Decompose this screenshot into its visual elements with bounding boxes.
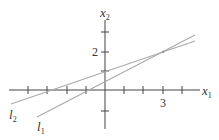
line-l1-label: l1 [37,120,45,136]
intersection-point [162,51,164,53]
x-tick-label: 3 [160,97,166,109]
line-l2-label: l2 [9,108,17,124]
line-l2 [11,41,195,104]
line-l1 [37,35,195,117]
y-tick-label: 2 [92,46,98,58]
y-axis-label: x2 [100,6,110,22]
x-axis-label: x1 [202,84,212,100]
